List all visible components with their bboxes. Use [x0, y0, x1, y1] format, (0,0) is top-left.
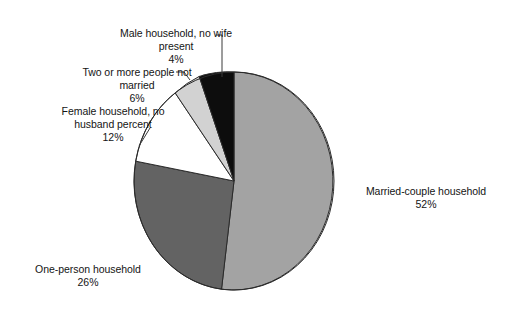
- pie-chart: Male household, no wife present 4% Two o…: [0, 0, 511, 313]
- pie-label-one-person-household-text: One-person household: [35, 263, 141, 275]
- pie-label-married-couple-household-text: Married-couple household: [366, 185, 486, 197]
- pie-slice-married-couple-household[interactable]: [222, 72, 333, 290]
- pie-label-female-household-percent: 12%: [22, 131, 204, 144]
- pie-label-male-household-text: Male household, no wife present: [120, 27, 232, 52]
- pie-label-one-person-household-percent: 26%: [8, 276, 168, 289]
- pie-label-female-household-text: Female household, no husband percent: [62, 105, 165, 130]
- pie-label-female-household: Female household, no husband percent 12%: [22, 92, 204, 157]
- pie-label-married-couple-household: Married-couple household 52%: [345, 172, 507, 224]
- pie-label-one-person-household: One-person household 26%: [8, 250, 168, 302]
- pie-label-married-couple-household-percent: 52%: [345, 198, 507, 211]
- pie-label-two-or-more-people-text: Two or more people not married: [82, 66, 191, 91]
